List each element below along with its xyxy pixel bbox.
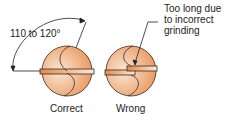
angle-label: 110 to 120° (10, 28, 61, 39)
caption-wrong: Wrong (116, 103, 145, 114)
wrong-drill-point (105, 46, 157, 96)
annotation-line-1: Too long due (164, 3, 221, 14)
annotation-line-2: to incorrect (164, 14, 213, 25)
annotation-line-3: grinding (164, 25, 200, 36)
correct-drill-point (40, 46, 94, 96)
caption-correct: Correct (50, 103, 83, 114)
